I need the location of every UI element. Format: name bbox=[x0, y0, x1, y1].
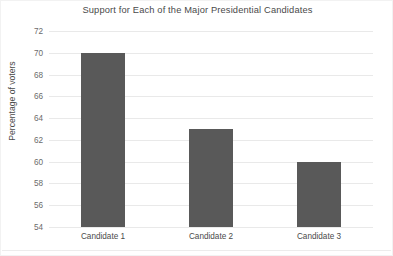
y-axis-title: Percentage of voters bbox=[7, 1, 21, 201]
bars-group bbox=[49, 31, 373, 227]
bar bbox=[81, 53, 125, 227]
y-tick-label: 66 bbox=[34, 92, 43, 101]
y-tick-label: 56 bbox=[34, 201, 43, 210]
bar bbox=[189, 129, 233, 227]
y-tick-label: 70 bbox=[34, 48, 43, 57]
bar bbox=[297, 162, 341, 227]
gridline: 54 bbox=[49, 227, 373, 228]
y-tick-label: 60 bbox=[34, 157, 43, 166]
x-tick-label: Candidate 3 bbox=[297, 232, 341, 241]
y-tick-label: 54 bbox=[34, 223, 43, 232]
y-tick-label: 72 bbox=[34, 27, 43, 36]
x-axis-labels: Candidate 1Candidate 2Candidate 3 bbox=[49, 232, 373, 246]
y-tick-label: 64 bbox=[34, 114, 43, 123]
chart-title: Support for Each of the Major Presidenti… bbox=[1, 5, 393, 15]
bar-chart: Support for Each of the Major Presidenti… bbox=[0, 0, 393, 256]
chart-bottom-rule bbox=[2, 250, 391, 251]
x-tick-label: Candidate 2 bbox=[189, 232, 233, 241]
plot-area: 72706866646260585654 bbox=[49, 31, 373, 227]
y-tick-label: 62 bbox=[34, 135, 43, 144]
y-tick-label: 68 bbox=[34, 70, 43, 79]
x-tick-label: Candidate 1 bbox=[81, 232, 125, 241]
y-tick-label: 58 bbox=[34, 179, 43, 188]
